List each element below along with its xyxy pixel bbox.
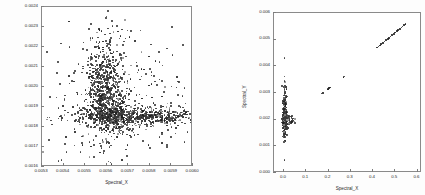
y-tick [273,65,276,66]
data-point [167,103,169,105]
data-point [376,47,378,49]
data-point [174,111,176,113]
data-point [93,139,95,141]
data-point [151,83,153,85]
data-point [74,113,76,115]
data-point [164,110,166,112]
data-point [184,141,186,143]
data-point [111,20,113,22]
y-tick-label: 0.0022 [5,44,38,48]
data-point [128,93,130,95]
data-point [116,25,118,27]
x-tick [149,163,150,166]
data-point [99,75,101,77]
data-point [109,119,111,121]
data-point [97,77,99,79]
data-point [93,144,95,146]
data-point [71,80,73,82]
data-point [90,96,92,98]
data-point [150,44,152,46]
data-point [126,91,128,93]
data-point [64,110,66,112]
data-point [98,55,100,57]
data-point [87,105,89,107]
data-point [98,117,100,119]
left-plot-frame[interactable] [41,6,192,166]
y-tick-label: 0.001 [237,143,270,147]
x-tick-label: 0.6 [403,175,425,179]
data-point [285,117,287,119]
data-point [111,110,113,112]
data-point [148,144,150,146]
data-point [114,72,116,74]
data-point [139,94,141,96]
data-point [124,81,126,83]
data-point [95,57,97,59]
data-point [184,123,186,125]
data-point [123,52,125,54]
data-point [95,78,97,80]
data-point [110,44,112,46]
data-point [89,67,91,69]
data-point [102,51,104,53]
data-point [160,110,162,112]
data-point [145,120,147,122]
data-point [127,82,129,84]
y-tick [273,119,276,120]
data-point [96,64,98,66]
data-point [170,123,172,125]
y-tick [41,146,44,147]
data-point [162,65,164,67]
data-point [186,114,188,116]
data-point [288,115,290,117]
data-point [109,117,111,119]
data-point [126,134,128,136]
data-point [107,10,109,12]
data-point [110,71,112,73]
data-point [113,95,115,97]
data-point [90,23,92,25]
data-point [106,114,108,116]
data-point [283,136,285,138]
data-point [129,124,131,126]
data-point [149,106,151,108]
data-point [117,89,119,91]
data-point [102,41,104,43]
data-point [163,91,165,93]
data-point [176,76,178,78]
right-y-axis-title: Spectral_Y [242,86,247,108]
data-point [146,95,148,97]
data-point [170,136,172,138]
data-point [92,75,94,77]
data-point [138,69,140,71]
data-point [56,72,58,74]
data-point [125,109,127,111]
x-tick [372,169,373,172]
right-plot-frame[interactable] [273,12,421,172]
data-point [156,84,158,86]
data-point [100,112,102,114]
data-point [116,84,118,86]
data-point [58,107,60,109]
data-point [134,87,136,89]
data-point [141,98,143,100]
data-point [110,76,112,78]
data-point [101,75,103,77]
x-tick [350,169,351,172]
data-point [151,118,153,120]
data-point [104,108,106,110]
data-point [153,75,155,77]
left-plot-canvas [42,7,191,165]
data-point [136,65,138,67]
data-point [60,43,62,45]
data-point [105,17,107,19]
data-point [119,98,121,100]
data-point [171,116,173,118]
y-tick-label: 0.000 [237,170,270,174]
data-point [190,119,191,121]
data-point [100,104,102,106]
data-point [167,129,169,131]
data-point [148,85,150,87]
data-point [122,111,124,113]
data-point [95,135,97,137]
